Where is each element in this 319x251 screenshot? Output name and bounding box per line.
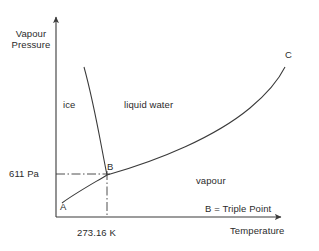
- point-label-b: B: [107, 162, 113, 173]
- region-label-vapour: vapour: [196, 176, 226, 187]
- sublimation-curve: [62, 175, 107, 203]
- region-label-ice: ice: [63, 100, 75, 111]
- point-label-c: C: [285, 50, 292, 61]
- vaporisation-curve: [107, 67, 285, 175]
- y-axis-label: Vapour Pressure: [8, 28, 54, 50]
- y-tick-label-611pa: 611 Pa: [9, 169, 39, 180]
- x-tick-label-273k: 273.16 K: [77, 228, 116, 239]
- point-label-a: A: [60, 202, 66, 213]
- x-axis-label: Temperature: [230, 226, 284, 237]
- legend-triple-point: B = Triple Point: [205, 204, 271, 215]
- phase-diagram-figure: Vapour Pressure Temperature 611 Pa 273.1…: [0, 0, 319, 251]
- region-label-liquid-water: liquid water: [124, 100, 173, 111]
- fusion-curve: [84, 67, 107, 175]
